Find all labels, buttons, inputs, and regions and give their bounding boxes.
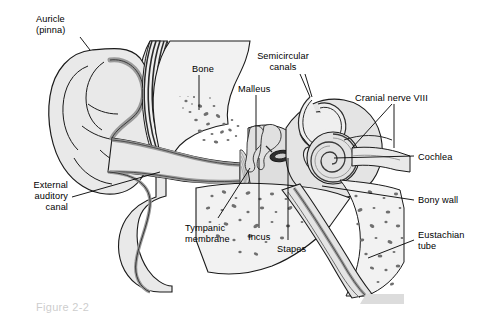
lower-tissue-block	[360, 294, 404, 304]
label-bony-wall: Bony wall	[418, 195, 458, 206]
figure-caption: Figure 2-2	[36, 301, 89, 313]
label-cranial-nerve-viii: Cranial nerve VIII	[355, 93, 428, 104]
label-incus: Incus	[248, 232, 270, 243]
label-stapes: Stapes	[277, 244, 306, 255]
label-external-auditory-canal: External auditory canal	[2, 180, 68, 214]
label-malleus: Malleus	[238, 84, 270, 95]
label-bone: Bone	[192, 64, 214, 75]
label-tympanic-membrane: Tympanic membrane	[185, 223, 230, 245]
label-eustachian-tube: Eustachian tube	[418, 230, 464, 252]
label-auricle: Auricle (pinna)	[36, 14, 65, 36]
label-semicircular-canals: Semicircular canals	[240, 51, 326, 73]
leader-auricle	[80, 37, 90, 50]
label-cochlea: Cochlea	[418, 152, 452, 163]
